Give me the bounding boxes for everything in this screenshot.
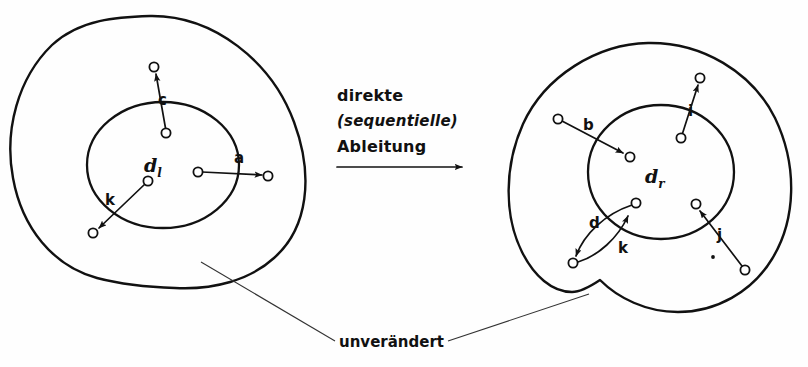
left-edge-c-target-node: [149, 62, 158, 71]
left-edge-k-source-node: [143, 176, 152, 185]
caption-leader-right: [448, 294, 589, 341]
right-edge-b-label: b: [583, 116, 594, 134]
left-outer-boundary: [10, 16, 305, 288]
transform-line-2: (sequentielle): [337, 112, 458, 130]
right-edge-d-label: d: [589, 214, 600, 232]
right-region-label: dr: [645, 165, 666, 191]
right-edge-b-target-node: [625, 152, 634, 161]
right-inner-region: [588, 105, 734, 239]
figure-canvas: dl c a k direkte (sequentielle) Ableitun…: [0, 0, 808, 367]
left-edge-a-label: a: [234, 149, 244, 167]
left-edge-k: k: [88, 176, 152, 237]
caption-group: unverändert: [201, 262, 589, 351]
left-edge-a: a: [193, 149, 272, 181]
left-edge-c-source-node: [161, 128, 170, 137]
transform-line-3: Ableitung: [337, 137, 426, 156]
right-edge-k-label: k: [618, 239, 629, 257]
right-edge-j-target-node: [691, 199, 700, 208]
left-diagram-group: dl c a k: [10, 16, 305, 288]
right-edge-d-source-node: [631, 198, 640, 207]
left-inner-region: [87, 102, 239, 228]
right-edge-b: b: [553, 114, 634, 161]
caption-leader-left: [201, 262, 335, 341]
caption-label: unverändert: [339, 333, 444, 351]
transform-group: direkte (sequentielle) Ableitung: [337, 86, 462, 167]
left-edge-a-target-node: [263, 171, 272, 180]
right-edge-i-source-node: [676, 133, 685, 142]
right-edge-i-target-node: [695, 73, 704, 82]
right-edge-i-label: i: [688, 102, 693, 120]
left-edge-c-label: c: [158, 91, 167, 109]
right-edge-j-source-node: [740, 265, 749, 274]
stray-dot-mark: [711, 255, 715, 259]
left-edge-a-line: [202, 172, 262, 175]
right-edge-b-source-node: [553, 114, 562, 123]
left-edge-k-label: k: [105, 191, 116, 209]
right-edge-d-target-node: [568, 258, 577, 267]
right-diagram-group: dr b i d k: [509, 43, 792, 312]
left-edge-a-source-node: [193, 167, 202, 176]
left-edge-k-target-node: [88, 228, 97, 237]
left-edge-c: c: [149, 62, 170, 137]
transform-line-1: direkte: [337, 86, 403, 105]
derivation-diagram: dl c a k direkte (sequentielle) Ableitun…: [0, 0, 808, 367]
right-edge-j-label: j: [716, 226, 722, 244]
